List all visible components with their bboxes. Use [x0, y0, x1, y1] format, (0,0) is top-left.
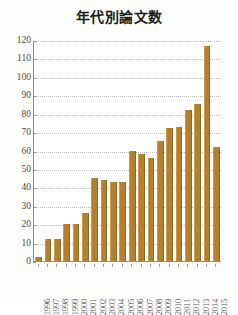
bar-2013 — [194, 104, 201, 261]
y-axis-tick-label: 120 — [3, 36, 31, 46]
y-axis-tick-mark — [33, 115, 36, 116]
x-axis-tick-mark — [187, 264, 188, 267]
bar-2012 — [185, 110, 192, 261]
y-axis-tick-mark — [33, 59, 36, 60]
bar-2014 — [204, 46, 211, 261]
x-axis-tick-mark — [169, 264, 170, 267]
x-axis-tick-label: 2009 — [163, 299, 173, 315]
chart-title: 年代別論文数 — [0, 6, 238, 26]
x-axis-tick-mark — [197, 264, 198, 267]
y-axis-tick-mark — [33, 262, 36, 263]
x-axis-tick-mark — [178, 264, 179, 267]
bar-2006 — [129, 151, 136, 262]
gridline — [34, 207, 221, 208]
bar-2004 — [110, 182, 117, 261]
y-axis-tick-mark — [33, 188, 36, 189]
bar-2008 — [148, 158, 155, 261]
x-axis-tick-label: 2004 — [116, 299, 126, 315]
y-axis-tick-label: 60 — [3, 147, 31, 157]
bar-2015 — [213, 147, 220, 261]
x-axis-tick-mark — [103, 264, 104, 267]
y-axis-tick-mark — [33, 78, 36, 79]
y-axis-tick-label: 0 — [3, 257, 31, 267]
gridline — [34, 152, 221, 153]
y-axis-tick-label: 80 — [3, 110, 31, 120]
y-axis-tick-label: 90 — [3, 92, 31, 102]
x-axis-tick-label: 1998 — [60, 299, 70, 315]
y-axis-tick-mark — [33, 41, 36, 42]
gridline — [34, 96, 221, 97]
x-axis-tick-mark — [47, 264, 48, 267]
x-axis-tick-mark — [94, 264, 95, 267]
bar-2009 — [157, 141, 164, 261]
gridline — [34, 59, 221, 60]
y-axis: 0102030405060708090100110120 — [0, 41, 31, 262]
x-axis-tick-mark — [84, 264, 85, 267]
x-axis-tick-label: 2012 — [191, 299, 201, 315]
gridline — [34, 188, 221, 189]
x-axis-tick-mark — [141, 264, 142, 267]
gridline — [34, 225, 221, 226]
y-axis-tick-label: 70 — [3, 128, 31, 138]
y-axis-tick-mark — [33, 152, 36, 153]
bar-2010 — [166, 128, 173, 261]
y-axis-tick-label: 30 — [3, 202, 31, 212]
x-axis-tick-mark — [112, 264, 113, 267]
x-axis-tick-mark — [215, 264, 216, 267]
plot-area — [33, 41, 221, 262]
x-axis-tick-mark — [150, 264, 151, 267]
gridline — [34, 244, 221, 245]
x-axis-tick-label: 2001 — [88, 299, 98, 315]
bar-2007 — [138, 154, 145, 261]
x-axis-tick-mark — [131, 264, 132, 267]
x-axis-tick-mark — [75, 264, 76, 267]
x-axis-tick-mark — [206, 264, 207, 267]
y-axis-tick-label: 50 — [3, 165, 31, 175]
x-axis-tick-mark — [66, 264, 67, 267]
bar-1996 — [35, 257, 42, 261]
y-axis-tick-mark — [33, 225, 36, 226]
gridline — [34, 115, 221, 116]
x-axis: 1996199719981999200020012002200320042005… — [33, 264, 221, 301]
y-axis-tick-mark — [33, 133, 36, 134]
y-axis-tick-label: 10 — [3, 239, 31, 249]
bar-1999 — [63, 224, 70, 261]
gridline — [34, 41, 221, 42]
y-axis-tick-mark — [33, 170, 36, 171]
bar-2002 — [91, 178, 98, 261]
y-axis-tick-mark — [33, 96, 36, 97]
bar-1997 — [45, 239, 52, 261]
gridline — [34, 133, 221, 134]
bar-2003 — [101, 180, 108, 261]
y-axis-tick-label: 40 — [3, 184, 31, 194]
y-axis-tick-label: 110 — [3, 55, 31, 65]
x-axis-tick-mark — [38, 264, 39, 267]
y-axis-tick-label: 100 — [3, 73, 31, 83]
y-axis-tick-label: 20 — [3, 220, 31, 230]
x-axis-tick-label: 2006 — [135, 299, 145, 315]
bar-2000 — [73, 224, 80, 261]
gridline — [34, 170, 221, 171]
gridline — [34, 78, 221, 79]
x-axis-tick-mark — [122, 264, 123, 267]
x-axis-tick-mark — [159, 264, 160, 267]
y-axis-tick-mark — [33, 207, 36, 208]
x-axis-tick-label: 2015 — [219, 299, 229, 315]
bar-2005 — [119, 182, 126, 261]
x-axis-tick-mark — [56, 264, 57, 267]
bar-2001 — [82, 213, 89, 261]
bar-2011 — [176, 127, 183, 261]
bar-1998 — [54, 239, 61, 261]
y-axis-tick-mark — [33, 244, 36, 245]
